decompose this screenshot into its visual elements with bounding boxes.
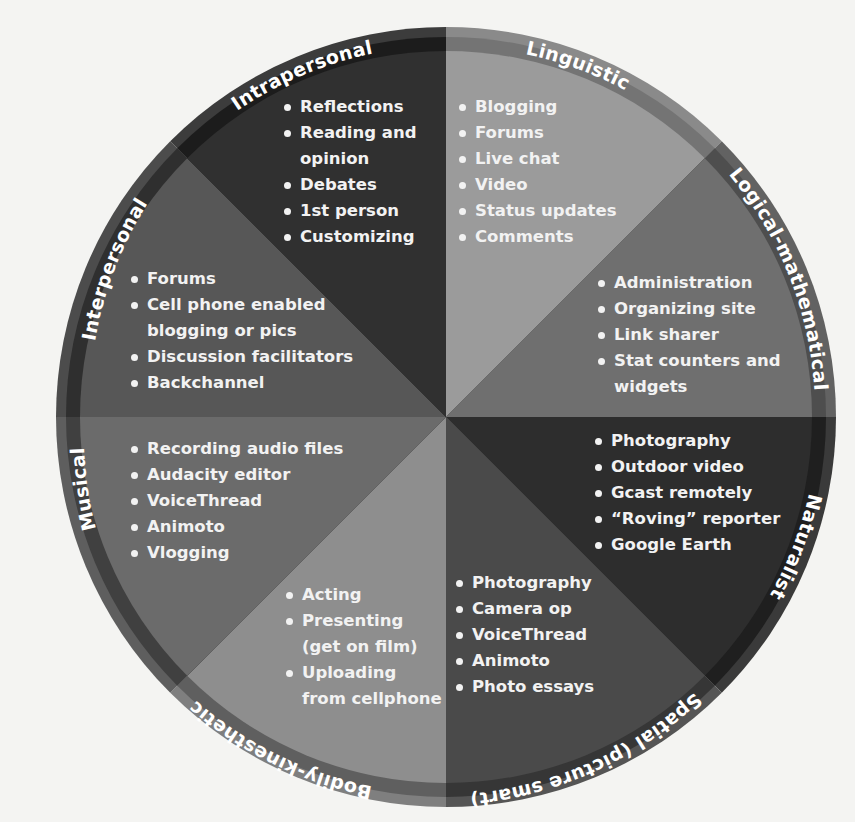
list-item: Photography [593,428,780,454]
list-item: Google Earth [593,532,780,558]
list-item: Blogging [457,94,617,120]
list-item: Forums [457,120,617,146]
list-item: Administration [596,270,781,296]
list-item: Backchannel [129,370,353,396]
list-item: VoiceThread [129,488,343,514]
list-item: VoiceThread [454,622,594,648]
intrapersonal-items: Reflections Reading andopinion Debates 1… [282,94,417,250]
list-item: Animoto [454,648,594,674]
list-item: Video [457,172,617,198]
list-item: Stat counters andwidgets [596,348,781,400]
list-item: Discussion facilitators [129,344,353,370]
naturalist-items: Photography Outdoor video Gcast remotely… [593,428,780,558]
list-item: Reflections [282,94,417,120]
list-item: Cell phone enabledblogging or pics [129,292,353,344]
bodily-kinesthetic-items: Acting Presenting(get on film) Uploading… [284,582,442,712]
list-item: Camera op [454,596,594,622]
list-item: Animoto [129,514,343,540]
list-item: Recording audio files [129,436,343,462]
list-item: Debates [282,172,417,198]
linguistic-items: Blogging Forums Live chat Video Status u… [457,94,617,250]
list-item: Outdoor video [593,454,780,480]
list-item: Comments [457,224,617,250]
list-item: Photography [454,570,594,596]
list-item: 1st person [282,198,417,224]
list-item: Vlogging [129,540,343,566]
list-item: Customizing [282,224,417,250]
list-item: Live chat [457,146,617,172]
list-item: Photo essays [454,674,594,700]
list-item: Uploadingfrom cellphone [284,660,442,712]
spatial-items: Photography Camera op VoiceThread Animot… [454,570,594,700]
list-item: Gcast remotely [593,480,780,506]
list-item: Acting [284,582,442,608]
list-item: Presenting(get on film) [284,608,442,660]
list-item: Forums [129,266,353,292]
list-item: Audacity editor [129,462,343,488]
list-item: Status updates [457,198,617,224]
musical-items: Recording audio files Audacity editor Vo… [129,436,343,566]
interpersonal-items: Forums Cell phone enabledblogging or pic… [129,266,353,396]
list-item: Organizing site [596,296,781,322]
logical-mathematical-items: Administration Organizing site Link shar… [596,270,781,400]
list-item: “Roving” reporter [593,506,780,532]
list-item: Link sharer [596,322,781,348]
list-item: Reading andopinion [282,120,417,172]
